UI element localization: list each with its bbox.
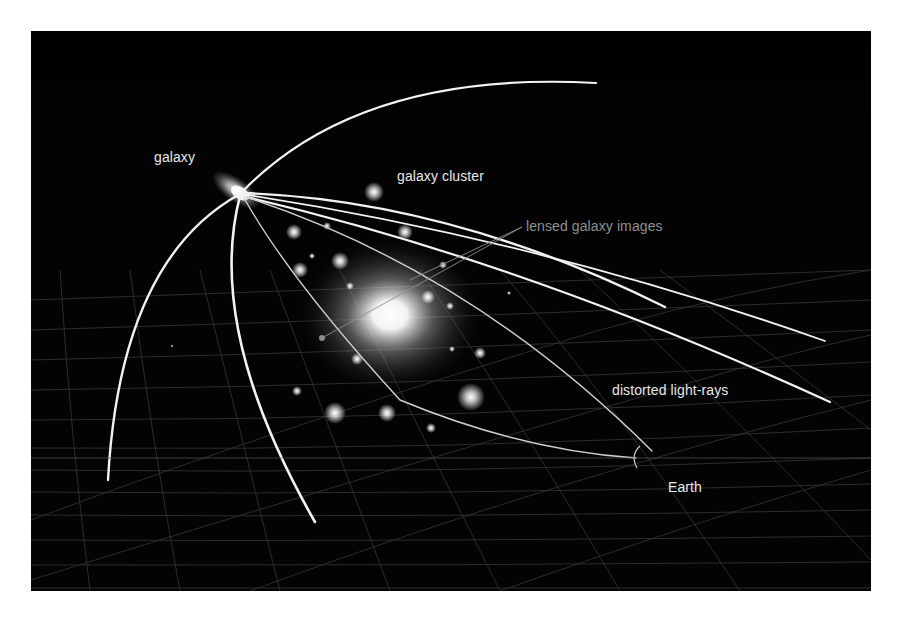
label-lensed-galaxy-images: lensed galaxy images bbox=[526, 218, 663, 234]
label-galaxy-cluster: galaxy cluster bbox=[397, 168, 484, 184]
diagram-panel: galaxy galaxy cluster lensed galaxy imag… bbox=[31, 31, 871, 591]
label-galaxy: galaxy bbox=[154, 149, 195, 165]
label-distorted-light-rays: distorted light-rays bbox=[612, 382, 728, 398]
label-earth: Earth bbox=[668, 479, 702, 495]
lensing-scene bbox=[31, 31, 871, 591]
